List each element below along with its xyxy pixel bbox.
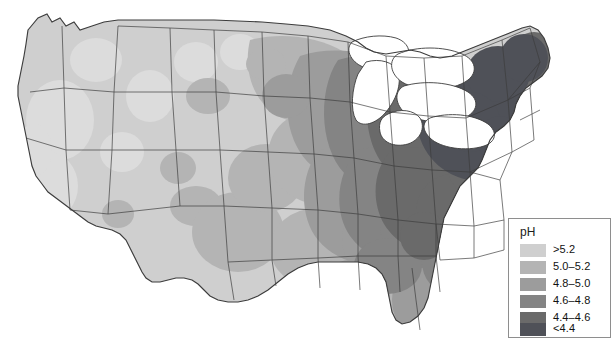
legend-swatch (520, 261, 546, 274)
legend-swatch (520, 278, 546, 291)
legend-label: >5.2 (553, 243, 575, 255)
legend-swatch (520, 323, 546, 336)
legend-label: 4.8–5.0 (553, 277, 590, 289)
legend-swatch (520, 244, 546, 257)
legend-swatch (520, 295, 546, 308)
legend-title: pH (520, 225, 536, 239)
map-figure: pH >5.2 5.0–5.2 4.8–5.0 4.6–4.8 4.4–4.6 … (0, 0, 613, 357)
legend-label: 5.0–5.2 (553, 260, 590, 272)
legend: pH >5.2 5.0–5.2 4.8–5.0 4.6–4.8 4.4–4.6 … (508, 218, 611, 338)
legend-label: <4.4 (553, 322, 575, 334)
legend-label: 4.6–4.8 (553, 294, 590, 306)
